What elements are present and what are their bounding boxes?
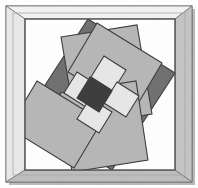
frame-bevel-right bbox=[175, 6, 192, 182]
frame-bevel-left bbox=[6, 6, 25, 182]
frame-bevel-top bbox=[6, 6, 192, 19]
framed-artwork bbox=[0, 0, 198, 188]
artwork-image bbox=[9, 19, 175, 172]
artwork-canvas bbox=[0, 0, 198, 188]
frame-bevel-bottom bbox=[6, 170, 192, 182]
